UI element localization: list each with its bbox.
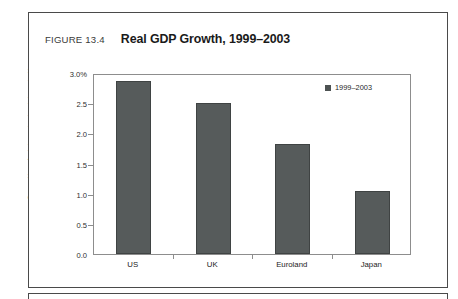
plot-area xyxy=(93,74,411,255)
page-title: Real GDP Growth, 1999–2003 xyxy=(121,32,290,46)
x-axis-label: UK xyxy=(207,260,218,269)
y-axis-tick-mark xyxy=(88,104,93,105)
y-axis-tick-mark xyxy=(88,195,93,196)
figure-title-row: FIGURE 13.4 Real GDP Growth, 1999–2003 xyxy=(45,32,290,46)
x-axis-tick-mark xyxy=(252,255,253,259)
bar-us[interactable] xyxy=(116,81,151,254)
y-axis-labels: 3.0%2.52.01.51.00.50.0 xyxy=(49,74,87,255)
figure-number: FIGURE 13.4 xyxy=(45,34,105,45)
x-axis-label: Japan xyxy=(361,260,382,269)
y-axis-tick-label: 0.5 xyxy=(76,220,87,229)
legend: 1999–2003 xyxy=(325,83,372,92)
y-axis-tick-label: 0.0 xyxy=(76,251,87,260)
bar-japan[interactable] xyxy=(355,191,390,254)
bar-uk[interactable] xyxy=(196,103,231,254)
x-axis-label: Euroland xyxy=(276,260,307,269)
next-figure-frame xyxy=(28,293,448,299)
y-axis-tick-label: 1.5 xyxy=(76,160,87,169)
y-axis-tick-label: 3.0% xyxy=(70,70,87,79)
legend-label: 1999–2003 xyxy=(335,83,372,92)
y-axis-tick-label: 1.0 xyxy=(76,190,87,199)
bar-slot xyxy=(333,75,413,254)
bars-container xyxy=(94,75,410,254)
y-axis-tick-label: 2.0 xyxy=(76,130,87,139)
bar-slot xyxy=(174,75,254,254)
x-axis-tick-mark xyxy=(173,255,174,259)
y-axis-tick-label: 2.5 xyxy=(76,100,87,109)
bar-euroland[interactable] xyxy=(275,144,310,254)
y-axis-tick-mark xyxy=(88,165,93,166)
x-axis-tick-mark xyxy=(332,255,333,259)
legend-swatch-icon xyxy=(325,85,331,91)
figure-frame: FIGURE 13.4 Real GDP Growth, 1999–2003 3… xyxy=(28,12,448,288)
bar-slot xyxy=(94,75,174,254)
y-axis-tick-mark xyxy=(88,134,93,135)
x-axis-label: US xyxy=(127,260,138,269)
bar-slot xyxy=(253,75,333,254)
y-axis-tick-mark xyxy=(88,225,93,226)
